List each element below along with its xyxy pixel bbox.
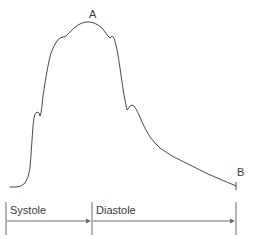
arterial-pressure-waveform-figure: A B Systole Diastole <box>0 0 278 239</box>
pressure-trace-line <box>10 22 236 187</box>
diastole-arrowhead-icon <box>230 219 235 224</box>
systole-arrowhead-icon <box>86 219 91 224</box>
phase-label-systole: Systole <box>10 204 46 216</box>
end-label-b: B <box>237 167 244 178</box>
peak-label-a: A <box>89 9 96 20</box>
phase-label-diastole: Diastole <box>96 204 136 216</box>
